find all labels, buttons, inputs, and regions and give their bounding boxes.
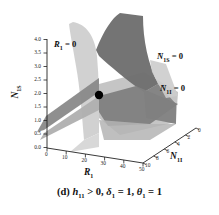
caption-h-sub: 11 [78,192,84,199]
axis-y-title-var: N [10,92,20,99]
axis-y-tick-3-5: 3.5 [24,50,41,55]
axis-z-tick-2: 2 [188,135,191,140]
annotation-n1s-nullcline: ·N1S = 0 [157,52,183,63]
n1i-dot-accent: · [162,82,164,89]
annotation-n1i-eq: = 0 [174,83,185,93]
axis-z-tick-10: 10 [145,163,150,168]
axis-y-tick-0-0: 0.0 [24,145,41,150]
axis-x-title-sub: 1 [90,173,93,179]
axis-z-title-var: N [170,151,177,161]
plot-area-3d: 4.0 3.5 3.0 2.5 2.0 1.5 1.0 0.5 0.0 0 10… [0,0,219,180]
axis-y-tick-2-5: 2.5 [24,77,41,82]
axis-y-tick-1-0: 1.0 [24,118,41,123]
axis-y-title-sub: 1S [16,85,22,91]
axis-y-tick-4-0: 4.0 [24,37,41,42]
axis-y-tick-0-5: 0.5 [24,131,41,136]
annotation-n1i-sub: 1I [166,89,171,95]
caption-h-rel: > 0, [87,186,103,197]
axis-z-tick-4: 4 [177,142,180,147]
annotation-n1s-eq: = 0 [172,51,183,61]
axis-z-tick-8: 8 [156,156,159,161]
axis-x-title: R1 [84,168,93,179]
axis-z-tick-0: 0 [198,128,201,133]
figure-panel-d: 4.0 3.5 3.0 2.5 2.0 1.5 1.0 0.5 0.0 0 10… [0,0,219,215]
n1s-dot-accent: · [159,50,161,57]
axis-x-tick-20: 20 [82,158,87,163]
axis-x-tick-50: 50 [139,167,144,172]
axis-y-tick-1-5: 1.5 [24,104,41,109]
r1-dot-accent: · [56,38,58,45]
axis-x-tick-40: 40 [120,164,125,169]
annotation-r1-sub: 1 [60,45,63,51]
caption-index: (d) [57,186,70,197]
caption-theta-rel: = 1 [148,186,162,197]
axis-y-title-wrap: N1S [8,72,24,112]
axis-x-tick-0: 0 [45,152,48,157]
equilibrium-point-marker [95,91,103,99]
axis-x-tick-30: 30 [101,161,106,166]
caption-delta-sub: 1 [112,192,115,199]
annotation-r1-eq: = 0 [65,39,76,49]
axis-y-title: N1S [10,85,22,98]
axis-y-ticks [44,40,48,148]
annotation-n1i-nullcline: ·N1I = 0 [160,84,185,95]
figure-caption: (d) h11 > 0, δ1 = 1, θ1 = 1 [0,186,219,199]
annotation-n1s-sub: 1S [163,57,169,63]
axis-x-tick-10: 10 [62,155,67,160]
axis-z-title: N1I [170,152,182,163]
caption-delta-rel: = 1, [118,186,134,197]
axis-z-title-sub: 1I [177,157,182,163]
annotation-r1-nullcline: ·R1 = 0 [54,40,76,51]
axis-z-tick-6: 6 [167,149,170,154]
axis-y-tick-2-0: 2.0 [24,91,41,96]
axis-y-tick-3-0: 3.0 [24,64,41,69]
caption-theta-sub: 1 [142,192,145,199]
